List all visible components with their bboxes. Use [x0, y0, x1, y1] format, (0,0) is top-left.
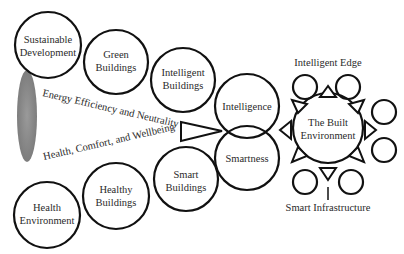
node-label: Buildings — [96, 62, 137, 73]
node-label: Smart — [173, 169, 198, 180]
node-label: Buildings — [96, 197, 137, 208]
edge-node-icon — [293, 75, 317, 99]
node-green-buildings: Green Buildings — [84, 30, 148, 94]
triangle-icon — [365, 121, 376, 139]
hub-label: The Built — [308, 117, 348, 128]
node-label: Development — [20, 47, 77, 58]
node-intelligent-buildings: Intelligent Buildings — [151, 48, 215, 112]
node-label: Intelligence — [222, 101, 272, 112]
smart-infrastructure-label: Smart Infrastructure — [286, 202, 371, 213]
node-label: Healthy — [99, 184, 133, 195]
intelligent-edge-label: Intelligent Edge — [294, 57, 362, 68]
hub-label: Environment — [301, 130, 356, 141]
node-label: Environment — [20, 215, 75, 226]
node-healthy-buildings: Healthy Buildings — [83, 163, 149, 229]
node-sustainable-development: Sustainable Development — [15, 12, 81, 78]
triangle-icon — [320, 86, 336, 97]
triangle-icon — [349, 147, 364, 162]
node-label: Intelligent — [161, 67, 204, 78]
edge-node-icon — [372, 138, 396, 162]
infra-node-icon — [339, 170, 363, 194]
node-label: Buildings — [166, 182, 207, 193]
triangle-icon — [292, 147, 307, 162]
diagram-canvas: Sustainable Development Green Buildings … — [0, 0, 404, 254]
node-label: Sustainable — [24, 34, 73, 45]
triangle-icon — [280, 121, 291, 139]
infra-node-icon — [293, 170, 317, 194]
node-health-environment: Health Environment — [14, 182, 80, 248]
convergence-triangle-icon — [181, 122, 222, 141]
source-ellipse — [17, 70, 37, 162]
triangle-icon — [320, 168, 336, 180]
flow-label-health: Health, Comfort, and Wellbeing — [42, 121, 176, 162]
node-label: Health — [33, 202, 62, 213]
node-label: Smartness — [225, 153, 268, 164]
node-smart-buildings: Smart Buildings — [154, 147, 218, 211]
node-intelligence: Intelligence — [215, 74, 279, 138]
node-smartness: Smartness — [215, 126, 279, 190]
edge-node-icon — [372, 100, 396, 124]
node-label: Green — [103, 49, 129, 60]
node-label: Buildings — [163, 80, 204, 91]
edge-node-icon — [336, 75, 360, 99]
